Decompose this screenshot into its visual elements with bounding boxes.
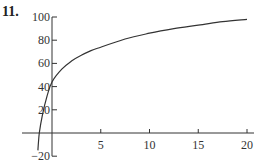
y-tick-label: 100 [32, 10, 50, 24]
x-tick-label: 10 [144, 138, 156, 152]
y-tick-label: −20 [31, 149, 50, 163]
function-plot: 5101520−2020406080100 [0, 0, 254, 163]
x-tick-label: 5 [98, 138, 104, 152]
function-curve [38, 19, 247, 150]
tick-marks [52, 17, 247, 156]
x-tick-label: 15 [192, 138, 204, 152]
y-tick-label: 60 [38, 56, 50, 70]
x-tick-label: 20 [241, 138, 253, 152]
y-tick-label: 80 [38, 33, 50, 47]
tick-labels: 5101520−2020406080100 [31, 10, 253, 163]
